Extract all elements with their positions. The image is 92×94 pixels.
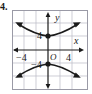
figure-container: 4.	[0, 0, 92, 94]
coordinate-plane: y x O −4 4 4 −4	[12, 10, 88, 90]
y-tick-label-negative-4: −4	[31, 59, 42, 70]
x-tick-label-negative-4: −4	[16, 52, 27, 63]
y-tick-label-positive-4: 4	[37, 30, 42, 41]
x-tick-label-positive-4: 4	[66, 52, 71, 63]
x-axis-label: x	[73, 35, 79, 46]
vertex-point-lower	[45, 61, 50, 66]
problem-number: 4.	[0, 2, 8, 12]
graph-svg: y x O −4 4 4 −4	[12, 10, 88, 90]
vertex-point-upper	[45, 33, 50, 38]
origin-label: O	[50, 52, 57, 62]
y-axis-label: y	[54, 12, 60, 23]
